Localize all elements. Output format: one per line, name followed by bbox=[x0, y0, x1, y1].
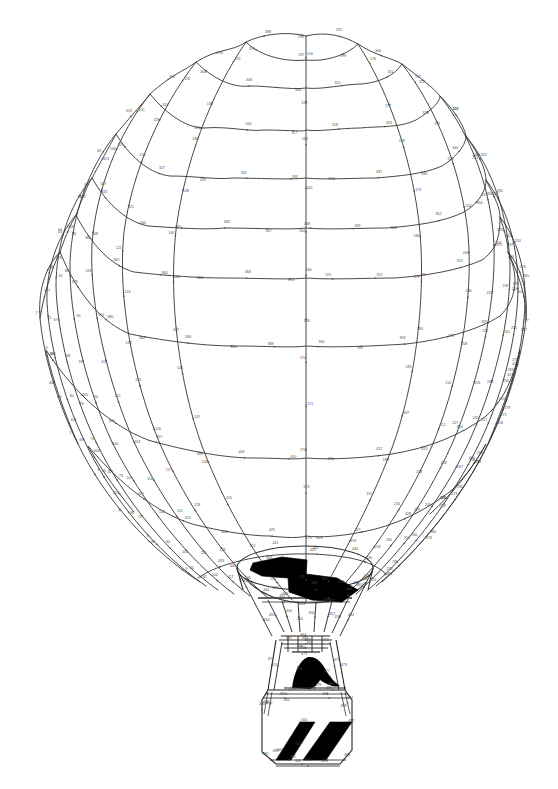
dot-number: 349 bbox=[355, 224, 361, 228]
dot-marker: 111 bbox=[101, 360, 107, 364]
dot-number: 370 bbox=[288, 278, 294, 282]
dot-number: 109 bbox=[85, 269, 91, 273]
dot-number: 142 bbox=[174, 275, 180, 279]
dot-number: 9 bbox=[185, 567, 187, 571]
dot-number: 483 bbox=[344, 753, 350, 757]
dot-number: 229 bbox=[414, 508, 420, 512]
dot-marker: 152 bbox=[250, 544, 256, 548]
dot-marker: 124 bbox=[126, 341, 132, 346]
dot-marker: 421 bbox=[108, 469, 114, 474]
dot-number: 290 bbox=[298, 35, 304, 39]
dot-number: 378 bbox=[56, 256, 62, 260]
dot-point bbox=[118, 401, 120, 403]
dot-number: 123 bbox=[124, 290, 130, 294]
dot-point bbox=[55, 357, 57, 359]
dot-point bbox=[182, 373, 184, 375]
dot-number: 261 bbox=[386, 572, 392, 576]
dot-number: 371 bbox=[326, 273, 332, 277]
dot-number: 431 bbox=[476, 460, 482, 464]
dot-point bbox=[96, 317, 98, 319]
dot-number: 108 bbox=[92, 232, 98, 236]
dot-marker: 199 bbox=[434, 121, 440, 126]
dot-marker: 214 bbox=[416, 470, 422, 475]
dot-point bbox=[82, 361, 84, 363]
dot-number: 494 bbox=[304, 758, 310, 762]
dot-point bbox=[200, 576, 202, 578]
dot-marker: 364 bbox=[160, 271, 168, 275]
dot-point bbox=[156, 442, 158, 444]
dot-point bbox=[118, 265, 120, 267]
dot-point bbox=[445, 497, 447, 499]
dot-number: 120 bbox=[139, 153, 145, 157]
dot-point bbox=[283, 601, 285, 603]
dot-point bbox=[94, 474, 96, 476]
dot-number: 358 bbox=[68, 225, 74, 229]
dot-number: 477 bbox=[324, 669, 330, 673]
dot-number: 454 bbox=[286, 609, 292, 613]
dot-number: 193 bbox=[350, 539, 356, 543]
dot-number: 390 bbox=[318, 340, 324, 344]
dot-number: 105 bbox=[138, 108, 144, 112]
dot-point bbox=[269, 703, 271, 705]
dot-marker: 442 bbox=[313, 546, 319, 551]
dot-marker: 375 bbox=[495, 243, 502, 247]
dot-number: 501 bbox=[295, 742, 301, 746]
dot-point bbox=[523, 296, 525, 298]
dot-marker: 126 bbox=[153, 427, 161, 431]
dot-number: 433 bbox=[218, 559, 224, 563]
dot-number: 119 bbox=[154, 118, 160, 122]
dot-number: 106 bbox=[110, 147, 116, 151]
dot-point bbox=[143, 498, 145, 500]
dot-marker: 143 bbox=[173, 327, 179, 332]
dot-number: 136 bbox=[192, 137, 198, 141]
dot-number: 228 bbox=[441, 461, 447, 465]
dot-number: 152 bbox=[250, 544, 256, 548]
dot-point bbox=[52, 360, 54, 362]
dot-number: 104 bbox=[212, 573, 218, 577]
dot-point bbox=[403, 543, 405, 545]
dot-number: 101 bbox=[127, 476, 133, 480]
dot-number: 399 bbox=[513, 282, 519, 286]
dot-number: 339 bbox=[421, 172, 427, 176]
dot-number: 405 bbox=[82, 393, 88, 397]
dot-point bbox=[287, 643, 289, 645]
dot-number: 145 bbox=[177, 366, 183, 370]
dot-point bbox=[498, 199, 500, 201]
dot-point bbox=[173, 281, 175, 283]
dot-number: 34 bbox=[101, 469, 105, 473]
dot-number: 214 bbox=[416, 470, 422, 474]
dot-number: 377 bbox=[44, 289, 50, 293]
dot-number: 451 bbox=[279, 594, 285, 598]
dot-point bbox=[39, 311, 41, 313]
dot-marker: 382 bbox=[139, 336, 146, 340]
dot-number: 255 bbox=[511, 326, 517, 330]
dot-number: 368 bbox=[245, 270, 251, 274]
dot-number: 299 bbox=[340, 54, 346, 58]
dot-marker: 177 bbox=[385, 104, 391, 109]
dot-point bbox=[286, 616, 288, 618]
dot-number: 410 bbox=[290, 455, 296, 459]
dot-number: 233 bbox=[473, 153, 479, 157]
dot-marker: 400 bbox=[508, 255, 514, 260]
dot-marker: 158 bbox=[301, 101, 307, 105]
dot-point bbox=[200, 127, 202, 129]
dot-marker: 455 bbox=[297, 616, 303, 621]
dot-marker: 108 bbox=[92, 231, 98, 236]
dot-point bbox=[460, 267, 462, 269]
dot-marker: 323 bbox=[102, 157, 109, 161]
dot-number: 195 bbox=[322, 577, 328, 581]
dot-marker: 481 bbox=[262, 752, 268, 756]
dot-marker: 293 bbox=[215, 51, 223, 55]
dot-point bbox=[479, 158, 481, 160]
dot-number: 424 bbox=[221, 530, 227, 534]
dot-number: 416 bbox=[512, 362, 518, 366]
dot-point bbox=[105, 197, 107, 199]
dot-marker: 308 bbox=[295, 88, 302, 92]
dot-number: 128 bbox=[194, 503, 200, 507]
dot-point bbox=[305, 492, 307, 494]
dot-point bbox=[345, 582, 347, 584]
dot-number: 411 bbox=[327, 457, 333, 461]
dot-point bbox=[216, 580, 218, 582]
dot-number: 6 bbox=[97, 468, 99, 472]
dot-number: 243 bbox=[487, 380, 493, 384]
